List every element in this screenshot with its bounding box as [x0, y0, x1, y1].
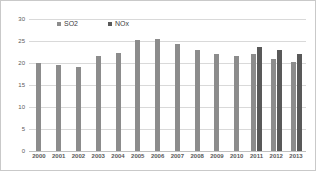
y-axis-tick-label: 30 — [18, 16, 25, 22]
plot-area: 051015202530 — [29, 19, 306, 151]
bar-so2-2005 — [135, 40, 140, 151]
bar-nox-2012 — [277, 50, 282, 151]
bar-group — [88, 19, 108, 151]
x-axis-label-2005: 2005 — [128, 153, 148, 159]
x-axis-label-2002: 2002 — [69, 153, 89, 159]
bar-so2-2010 — [234, 56, 239, 151]
bar-group — [69, 19, 89, 151]
y-axis-tick-label: 20 — [18, 60, 25, 66]
bar-so2-2003 — [96, 56, 101, 151]
x-axis-label-2001: 2001 — [49, 153, 69, 159]
bar-group — [167, 19, 187, 151]
bar-so2-2006 — [155, 39, 160, 151]
x-axis-label-2012: 2012 — [266, 153, 286, 159]
x-axis-label-2007: 2007 — [167, 153, 187, 159]
gridline — [29, 151, 306, 152]
y-axis-tick-label: 0 — [22, 148, 25, 154]
bar-so2-2002 — [76, 67, 81, 151]
bar-so2-2007 — [175, 44, 180, 151]
bar-group — [148, 19, 168, 151]
bar-nox-2011 — [257, 47, 262, 151]
y-axis-tick-label: 25 — [18, 38, 25, 44]
x-axis-label-2004: 2004 — [108, 153, 128, 159]
bar-chart: SO2 NOx 051015202530 2000200120022003200… — [0, 0, 316, 171]
bar-groups — [29, 19, 306, 151]
bar-group — [108, 19, 128, 151]
bar-group — [286, 19, 306, 151]
x-axis-label-2010: 2010 — [227, 153, 247, 159]
x-axis-label-2000: 2000 — [29, 153, 49, 159]
bar-group — [49, 19, 69, 151]
y-axis-tick-label: 10 — [18, 104, 25, 110]
x-axis-label-2008: 2008 — [187, 153, 207, 159]
bar-so2-2008 — [195, 50, 200, 151]
bar-so2-2013 — [291, 62, 296, 151]
bar-so2-2001 — [56, 65, 61, 151]
x-axis-label-2009: 2009 — [207, 153, 227, 159]
bar-nox-2013 — [297, 54, 302, 151]
y-axis-tick-label: 5 — [22, 126, 25, 132]
x-axis-label-2003: 2003 — [88, 153, 108, 159]
bar-so2-2004 — [116, 53, 121, 151]
bar-so2-2012 — [271, 59, 276, 151]
x-axis-labels: 2000200120022003200420052006200720082009… — [29, 153, 306, 159]
bar-group — [266, 19, 286, 151]
bar-so2-2009 — [214, 54, 219, 151]
bar-group — [187, 19, 207, 151]
y-axis-tick-label: 15 — [18, 82, 25, 88]
x-axis-label-2013: 2013 — [286, 153, 306, 159]
bar-so2-2011 — [251, 54, 256, 151]
x-axis-label-2011: 2011 — [247, 153, 267, 159]
bar-group — [247, 19, 267, 151]
bar-so2-2000 — [36, 63, 41, 151]
bar-group — [29, 19, 49, 151]
bar-group — [227, 19, 247, 151]
bar-group — [128, 19, 148, 151]
bar-group — [207, 19, 227, 151]
x-axis-label-2006: 2006 — [148, 153, 168, 159]
